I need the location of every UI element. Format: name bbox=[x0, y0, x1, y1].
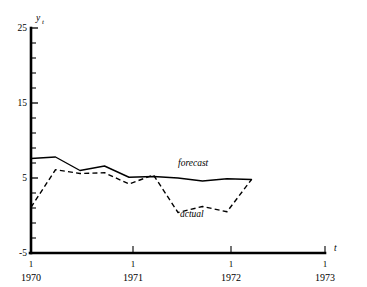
y-tick-label-15: 15 bbox=[18, 98, 28, 108]
y-axis-title-main: y bbox=[35, 13, 41, 23]
x-year-label-1973: 1973 bbox=[315, 272, 335, 283]
x-quarter-label-1973: 1 bbox=[323, 259, 328, 269]
chart-svg: 25 15 5 -5 y t t 1 1 1 1 1970 1971 1972 … bbox=[0, 0, 367, 287]
series-line-forecast bbox=[31, 157, 252, 181]
x-quarter-label-1971: 1 bbox=[131, 259, 136, 269]
y-tick-label-25: 25 bbox=[18, 23, 28, 33]
series-line-actual bbox=[31, 170, 252, 213]
y-axis-title-subscript: t bbox=[42, 18, 45, 26]
y-tick-label-minus5: -5 bbox=[19, 248, 27, 258]
x-year-label-1971: 1971 bbox=[123, 272, 143, 283]
x-quarter-label-1970: 1 bbox=[29, 259, 34, 269]
x-quarter-label-1972: 1 bbox=[229, 259, 234, 269]
x-year-label-1972: 1972 bbox=[221, 272, 241, 283]
x-year-label-1970: 1970 bbox=[21, 272, 41, 283]
forecast-vs-actual-chart: 25 15 5 -5 y t t 1 1 1 1 1970 1971 1972 … bbox=[0, 0, 367, 287]
axes bbox=[30, 28, 325, 253]
x-axis-title: t bbox=[334, 243, 337, 253]
y-axis-title: y t bbox=[35, 13, 45, 26]
series-annotation-actual: actual bbox=[180, 209, 204, 219]
y-tick-label-5: 5 bbox=[22, 173, 27, 183]
series-annotation-forecast: forecast bbox=[178, 158, 209, 168]
